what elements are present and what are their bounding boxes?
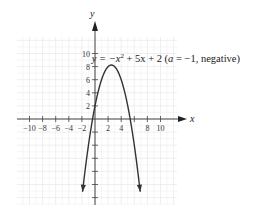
x-tick-label: 8	[145, 124, 149, 133]
y-tick-label: 4	[86, 89, 90, 98]
x-tick-label: −8	[38, 124, 47, 133]
ticks: −10−8−6−4−224810246810	[23, 50, 164, 198]
equation-annotation: y = −x2 + 5x + 2 (a = −1, negative)	[91, 52, 241, 65]
x-tick-label: −10	[23, 124, 36, 133]
y-axis-label: y	[89, 8, 95, 19]
x-tick-label: 2	[106, 124, 110, 133]
y-tick-label: 8	[86, 63, 90, 72]
parabola-curve	[83, 65, 141, 192]
y-tick-label: 2	[86, 102, 90, 111]
parabola-chart: −10−8−6−4−224810246810 x y y = −x2 + 5x …	[0, 0, 270, 210]
x-axis-label: x	[189, 113, 195, 124]
x-tick-label: −2	[78, 124, 87, 133]
x-tick-label: 10	[157, 124, 165, 133]
x-axis-arrow-icon	[178, 116, 187, 122]
eq-prefix: y = −x	[91, 53, 121, 64]
x-tick-label: −6	[51, 124, 60, 133]
x-tick-label: −4	[65, 124, 74, 133]
eq-suffix: + 5x + 2 (	[124, 53, 169, 65]
y-axis-arrow-icon	[92, 21, 98, 31]
x-tick-label: 4	[119, 124, 123, 133]
eq-tail: = −1, negative)	[173, 53, 240, 65]
y-tick-label: 6	[86, 76, 90, 85]
y-tick-label: 10	[82, 50, 90, 59]
